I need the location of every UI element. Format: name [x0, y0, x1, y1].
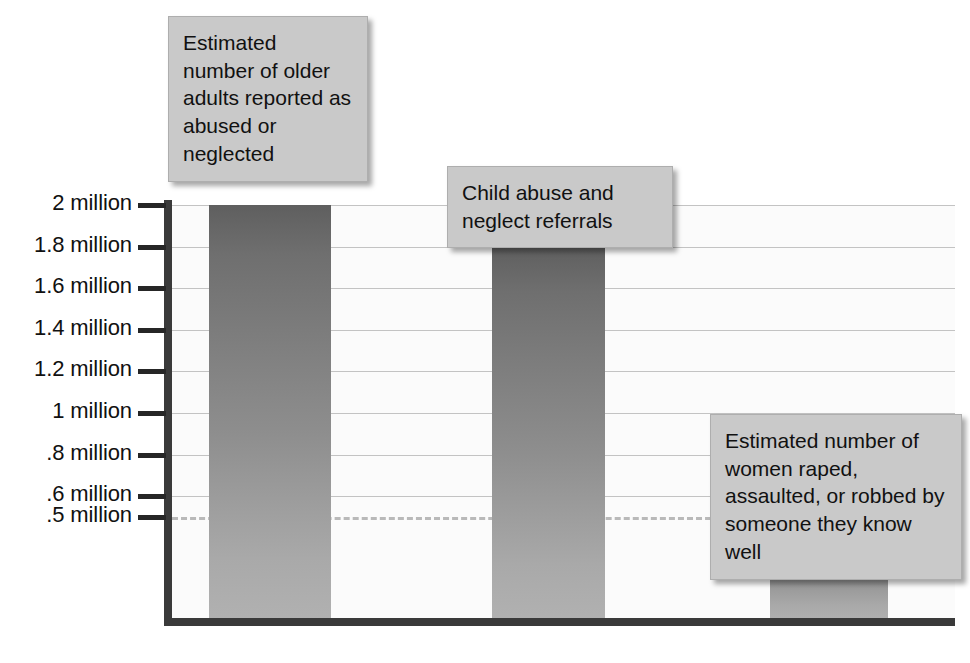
y-axis-tick-label: 1 million	[52, 398, 132, 424]
y-axis-tick-label: 1.6 million	[34, 273, 132, 299]
y-axis-tick-label: .5 million	[46, 502, 132, 528]
y-axis-tick-label: .8 million	[46, 440, 132, 466]
bar-1	[209, 205, 331, 621]
y-axis-tick	[138, 203, 166, 208]
y-axis-tick-label: 1.2 million	[34, 356, 132, 382]
bar-2	[492, 247, 605, 621]
y-axis-tick-label: 2 million	[52, 190, 132, 216]
y-axis-tick	[138, 369, 166, 374]
x-axis-line	[164, 618, 955, 626]
bar-chart: 2 million1.8 million1.6 million1.4 milli…	[0, 0, 970, 663]
callout-older-adults: Estimated number of older adults reporte…	[168, 16, 368, 182]
y-axis-tick	[138, 286, 166, 291]
y-axis-tick	[138, 328, 166, 333]
y-axis-tick	[138, 411, 166, 416]
callout-child-abuse: Child abuse and neglect referrals	[447, 166, 673, 248]
y-axis-tick	[138, 494, 166, 499]
callout-women-assaulted: Estimated number of women raped, assault…	[710, 414, 962, 580]
y-axis-tick	[138, 515, 166, 520]
y-axis-tick-label: 1.4 million	[34, 315, 132, 341]
y-axis-tick	[138, 245, 166, 250]
y-axis-tick	[138, 453, 166, 458]
y-axis-tick-label: 1.8 million	[34, 232, 132, 258]
